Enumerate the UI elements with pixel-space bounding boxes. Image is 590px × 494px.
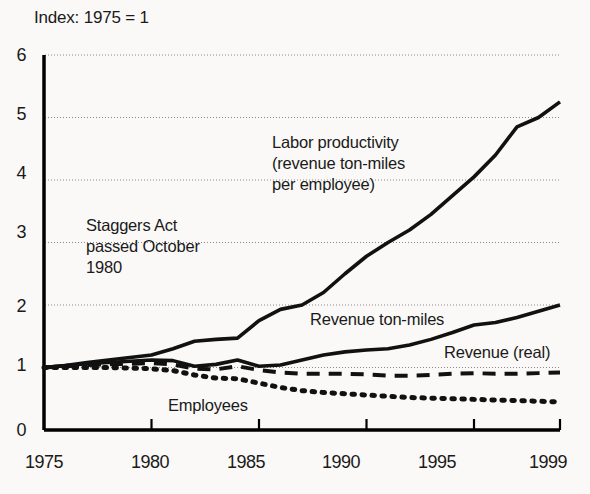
gridlines xyxy=(45,55,560,368)
x-axis-tick-1999: 1999 xyxy=(512,452,584,473)
y-axis-tick-4: 4 xyxy=(4,163,26,184)
x-axis-tick-1975: 1975 xyxy=(8,452,80,473)
series-label-employees: Employees xyxy=(168,396,248,415)
y-axis-tick-5: 5 xyxy=(4,104,26,125)
x-axis-tick-1985: 1985 xyxy=(210,452,282,473)
x-axis-tick-1995: 1995 xyxy=(401,452,473,473)
chart-page: Index: 1975 = 1 6 5 4 3 2 1 0 1975 1980 … xyxy=(0,0,590,494)
x-axis-tick-1980: 1980 xyxy=(114,452,186,473)
y-axis-tick-6: 6 xyxy=(4,45,26,66)
annotation-labor-productivity: Labor productivity (revenue ton-miles pe… xyxy=(272,132,405,195)
y-axis-tick-0: 0 xyxy=(4,420,26,441)
x-axis-tick-1990: 1990 xyxy=(305,452,377,473)
y-axis-tick-3: 3 xyxy=(4,222,26,243)
y-axis-tick-1: 1 xyxy=(4,355,26,376)
series-label-revenue-ton-miles: Revenue ton-miles xyxy=(310,310,444,329)
series-line-2 xyxy=(44,363,560,376)
series-label-revenue-real: Revenue (real) xyxy=(444,343,550,362)
annotation-staggers-act: Staggers Act passed October 1980 xyxy=(86,215,200,278)
y-axis-tick-2: 2 xyxy=(4,296,26,317)
